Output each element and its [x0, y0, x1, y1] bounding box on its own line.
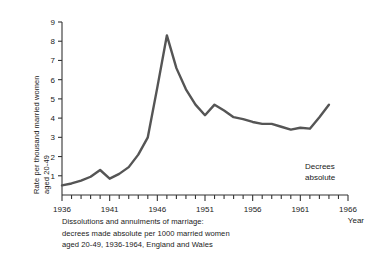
- legend-label-line-2: absolute: [305, 173, 335, 184]
- x-axis-tick-label: 1961: [291, 205, 309, 214]
- y-axis-tick-label: 8: [51, 37, 56, 46]
- y-axis-tick-label: 4: [51, 114, 56, 123]
- legend-label: Decrees absolute: [305, 162, 335, 183]
- y-axis-tick-label: 1: [51, 172, 56, 181]
- x-axis-tick-label: 1941: [101, 205, 119, 214]
- y-axis-tick-label: 3: [51, 133, 56, 142]
- caption-line-2: decrees made absolute per 1000 married w…: [62, 228, 230, 240]
- x-axis-tick-label: 1956: [244, 205, 262, 214]
- caption-line-1: Dissolutions and annulments of marriage:: [62, 216, 230, 228]
- y-axis-tick-label: 2: [51, 153, 56, 162]
- x-axis-tick-label: 1946: [148, 205, 166, 214]
- y-axis-tick-label: 5: [51, 95, 56, 104]
- x-axis-title: Year: [348, 216, 364, 225]
- legend-label-line-1: Decrees: [305, 162, 335, 173]
- y-axis-tick-label: 7: [51, 56, 56, 65]
- chart-caption: Dissolutions and annulments of marriage:…: [62, 216, 230, 251]
- x-axis-tick-label: 1951: [196, 205, 214, 214]
- caption-line-3: aged 20-49, 1936-1964, England and Wales: [62, 239, 230, 251]
- chart-axes: 1234567891936194119461951195619611966: [51, 18, 358, 214]
- x-axis-tick-label: 1936: [53, 205, 71, 214]
- series-line-decrees-absolute: [62, 35, 329, 185]
- y-axis-tick-label: 9: [51, 18, 56, 27]
- chart-figure: Rate per thousand married women aged 20-…: [0, 0, 378, 256]
- x-axis-tick-label: 1966: [339, 205, 357, 214]
- chart-series-layer: [62, 35, 329, 185]
- y-axis-tick-label: 6: [51, 76, 56, 85]
